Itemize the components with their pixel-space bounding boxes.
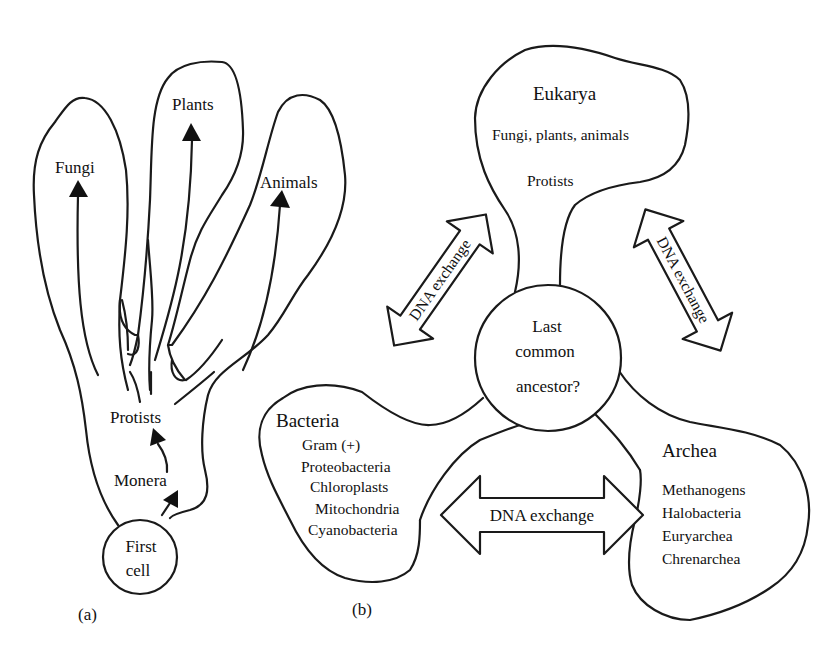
fungi-label: Fungi [55,158,95,177]
archea-item: Euryarchea [662,527,733,544]
ancestor-line3: ancestor? [516,377,580,396]
animals-arrow-line [243,205,280,370]
animals-fold [168,340,222,380]
bacteria-item: Proteobacteria [301,458,391,475]
archea-item: Chrenarchea [662,550,740,567]
lower-connector-right [596,415,640,470]
protists-left-line [130,372,140,402]
firstcell-to-monera-arrowhead-icon [163,490,178,508]
bacteria-item: Cyanobacteria [308,521,398,538]
monera-label: Monera [114,471,167,490]
plants-arrowhead-icon [182,123,201,141]
eukarya-line1: Fungi, plants, animals [492,126,629,143]
first-cell-circle [103,520,177,594]
ancestor-line1: Last [532,317,562,336]
bacteria-item: Mitochondria [315,500,399,517]
plants-label: Plants [172,95,214,114]
eukarya-line2: Protists [527,172,574,189]
animals-label: Animals [260,173,318,192]
archea-title: Archea [662,440,717,461]
first-cell-label-line2: cell [126,561,151,580]
dna-exchange-left-label: DNA exchange [405,236,474,324]
fungi-arrow-line [78,195,98,375]
fungi-arrowhead-icon [69,180,88,197]
panel-b-three-domain-tree: DNA exchange DNA exchange DNA exchange E… [259,46,809,620]
dna-exchange-right-label: DNA exchange [654,234,714,326]
panel-a-label: (a) [78,605,97,624]
protists-label: Protists [110,408,161,427]
monera-to-protists-arrow-line [158,444,167,472]
dna-exchange-arrow-right: DNA exchange [621,196,746,364]
archea-item: Methanogens [662,481,746,498]
dna-exchange-arrow-bottom: DNA exchange [441,476,643,554]
bacteria-item: Chloroplasts [310,478,388,495]
panel-a-traditional-tree: Fungi Plants Animals Protists Monera Fir… [34,62,346,624]
bacteria-title: Bacteria [276,410,340,431]
eukarya-title: Eukarya [533,83,597,104]
archea-item: Halobacteria [662,504,741,521]
dna-exchange-bottom-label: DNA exchange [490,506,594,525]
animals-arrowhead-icon [270,190,290,208]
panel-b-label: (b) [352,600,372,619]
first-cell-label-line1: First [125,537,156,556]
tree-of-life-diagram: Fungi Plants Animals Protists Monera Fir… [0,0,834,661]
ancestor-line2: common [515,342,575,361]
bacteria-item: Gram (+) [302,436,360,454]
